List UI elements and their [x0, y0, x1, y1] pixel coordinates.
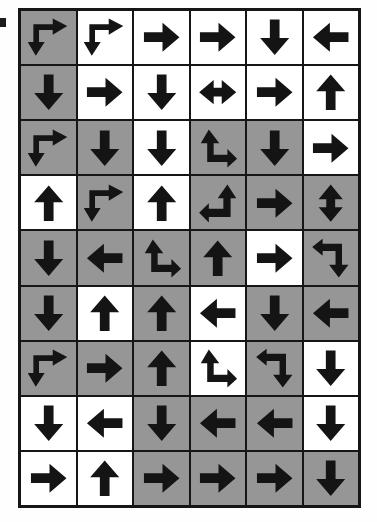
grid-cell[interactable] [134, 397, 189, 450]
grid-cell[interactable] [191, 342, 246, 395]
down-arrow-icon [134, 397, 189, 450]
right-arrow-icon [247, 452, 302, 505]
down-arrow-icon [247, 121, 302, 174]
grid-cell[interactable] [191, 121, 246, 174]
grid-cell[interactable] [247, 452, 302, 505]
down-arrow-icon [304, 452, 359, 505]
grid-cell[interactable] [191, 11, 246, 64]
left-right-arrow-icon [191, 66, 246, 119]
page-canvas [0, 0, 377, 522]
grid-cell[interactable] [78, 121, 133, 174]
bend-right-down-arrow-icon [21, 121, 76, 174]
right-arrow-icon [134, 452, 189, 505]
down-arrow-icon [21, 66, 76, 119]
grid-cell[interactable] [247, 11, 302, 64]
up-arrow-icon [78, 287, 133, 340]
right-arrow-icon [191, 452, 246, 505]
left-arrow-icon [247, 397, 302, 450]
grid-cell[interactable] [134, 176, 189, 229]
down-arrow-icon [247, 11, 302, 64]
grid-cell[interactable] [21, 66, 76, 119]
grid-cell[interactable] [247, 66, 302, 119]
grid-cell[interactable] [78, 452, 133, 505]
down-arrow-icon [304, 397, 359, 450]
bend-right-down-arrow-icon [21, 11, 76, 64]
grid-cell[interactable] [247, 287, 302, 340]
up-arrow-icon [78, 452, 133, 505]
up-arrow-icon [21, 176, 76, 229]
right-arrow-icon [134, 11, 189, 64]
grid-cell[interactable] [78, 11, 133, 64]
grid-cell[interactable] [191, 176, 246, 229]
grid-cell[interactable] [304, 342, 359, 395]
grid-cell[interactable] [21, 231, 76, 284]
grid-cell[interactable] [134, 11, 189, 64]
grid-cell[interactable] [304, 11, 359, 64]
grid-cell[interactable] [304, 452, 359, 505]
grid-cell[interactable] [191, 66, 246, 119]
down-arrow-icon [21, 397, 76, 450]
grid-cell[interactable] [304, 287, 359, 340]
grid-cell[interactable] [247, 342, 302, 395]
right-arrow-icon [247, 231, 302, 284]
bend-right-down-arrow-icon [78, 176, 133, 229]
grid-cell[interactable] [134, 287, 189, 340]
grid-cell[interactable] [21, 121, 76, 174]
grid-cell[interactable] [134, 342, 189, 395]
right-arrow-icon [78, 342, 133, 395]
grid-cell[interactable] [247, 176, 302, 229]
grid-cell[interactable] [21, 176, 76, 229]
grid-cell[interactable] [304, 66, 359, 119]
left-arrow-icon [191, 287, 246, 340]
up-arrow-icon [304, 66, 359, 119]
bend-up-left-arrow-icon [191, 176, 246, 229]
grid-cell[interactable] [304, 397, 359, 450]
grid-cell[interactable] [21, 287, 76, 340]
grid-cell[interactable] [21, 342, 76, 395]
grid-cell[interactable] [21, 11, 76, 64]
right-arrow-icon [247, 66, 302, 119]
bend-left-down-arrow-icon [304, 231, 359, 284]
down-arrow-icon [78, 121, 133, 174]
left-arrow-icon [78, 397, 133, 450]
down-arrow-icon [134, 66, 189, 119]
bend-up-right-arrow-icon [134, 231, 189, 284]
grid-cell[interactable] [134, 66, 189, 119]
grid-cell[interactable] [78, 342, 133, 395]
bend-left-down-arrow-icon [247, 342, 302, 395]
up-arrow-icon [134, 342, 189, 395]
grid-cell[interactable] [134, 231, 189, 284]
grid-cell[interactable] [134, 121, 189, 174]
grid-cell[interactable] [191, 231, 246, 284]
grid-cell[interactable] [191, 452, 246, 505]
grid-cell[interactable] [21, 452, 76, 505]
grid-cell[interactable] [304, 176, 359, 229]
right-arrow-icon [78, 66, 133, 119]
grid-cell[interactable] [191, 397, 246, 450]
grid-cell[interactable] [78, 231, 133, 284]
grid-cell[interactable] [134, 452, 189, 505]
grid-cell[interactable] [78, 66, 133, 119]
grid-cell[interactable] [247, 397, 302, 450]
down-arrow-icon [304, 342, 359, 395]
bend-up-right-arrow-icon [191, 121, 246, 174]
grid-cell[interactable] [247, 121, 302, 174]
bend-right-down-arrow-icon [78, 11, 133, 64]
down-arrow-icon [21, 287, 76, 340]
grid-cell[interactable] [78, 176, 133, 229]
grid-cell[interactable] [304, 121, 359, 174]
grid-cell[interactable] [304, 231, 359, 284]
right-arrow-icon [247, 176, 302, 229]
grid-cell[interactable] [247, 231, 302, 284]
right-arrow-icon [304, 121, 359, 174]
grid-cell[interactable] [78, 397, 133, 450]
left-arrow-icon [78, 231, 133, 284]
down-arrow-icon [134, 121, 189, 174]
bend-up-right-arrow-icon [191, 342, 246, 395]
right-arrow-icon [191, 11, 246, 64]
grid-cell[interactable] [78, 287, 133, 340]
down-arrow-icon [21, 231, 76, 284]
up-arrow-icon [191, 231, 246, 284]
grid-cell[interactable] [191, 287, 246, 340]
grid-cell[interactable] [21, 397, 76, 450]
